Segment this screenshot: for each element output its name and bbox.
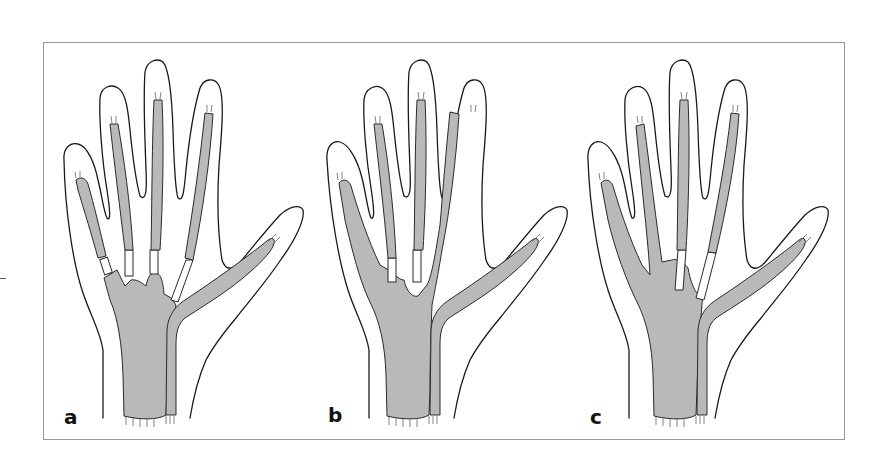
hand-b xyxy=(327,60,567,427)
hand-a xyxy=(64,60,303,427)
hand-c xyxy=(588,60,828,427)
panel-label-a: a xyxy=(64,407,78,427)
panel-label-b: b xyxy=(328,405,342,425)
hands-illustration xyxy=(0,0,892,463)
panel-label-c: c xyxy=(590,407,602,427)
